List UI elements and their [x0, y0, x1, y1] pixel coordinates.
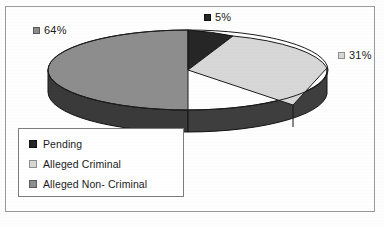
legend-label-pending: Pending: [43, 138, 82, 150]
data-label-alleged-criminal: 31%: [338, 49, 372, 61]
data-label-alleged-non-criminal: 64%: [33, 24, 67, 36]
data-label-alleged-criminal-text: 31%: [349, 49, 372, 61]
legend-item-alleged-criminal: Alleged Criminal: [29, 154, 183, 174]
pie-chart-figure: 5% 31% 64% Pending Alleged Criminal Alle…: [0, 0, 384, 227]
swatch-alleged-non-criminal-icon: [33, 27, 40, 34]
swatch-alleged-criminal-icon: [338, 52, 345, 59]
data-label-pending: 5%: [204, 11, 231, 23]
legend-swatch-pending-icon: [29, 140, 37, 148]
legend-label-alleged-non-criminal: Alleged Non- Criminal: [43, 178, 147, 190]
data-label-pending-text: 5%: [215, 11, 231, 23]
chart-legend: Pending Alleged Criminal Alleged Non- Cr…: [18, 128, 184, 197]
legend-swatch-alleged-criminal-icon: [29, 160, 37, 168]
legend-item-alleged-non-criminal: Alleged Non- Criminal: [29, 174, 183, 194]
data-label-alleged-non-criminal-text: 64%: [44, 24, 67, 36]
legend-item-pending: Pending: [29, 134, 183, 154]
legend-swatch-alleged-non-criminal-icon: [29, 180, 37, 188]
legend-label-alleged-criminal: Alleged Criminal: [43, 158, 121, 170]
swatch-pending-icon: [204, 14, 211, 21]
